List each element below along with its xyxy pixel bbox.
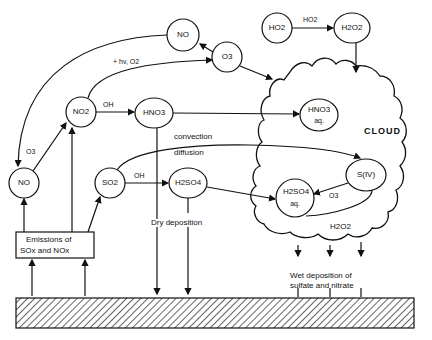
- node-label-no-left: NO: [15, 179, 33, 187]
- label-wet-deposition-2: sulfate and nitrate: [290, 282, 354, 290]
- node-h2so4-aq: [276, 179, 314, 217]
- node-label-h2so4: H2SO4: [174, 179, 202, 187]
- node-label-siv: S(IV): [352, 171, 380, 179]
- label-convection: convection: [174, 133, 212, 141]
- node-label-h2o2: H2O2: [338, 24, 366, 32]
- cloud-shape: [251, 58, 407, 240]
- label-emissions-2: SOx and NOx: [20, 247, 69, 255]
- node-label-so2: SO2: [99, 179, 121, 187]
- node-label-hno3-aq: HNO3: [305, 106, 333, 114]
- label-o3-cloud: O3: [329, 192, 338, 199]
- node-label-no-top: NO: [174, 31, 192, 39]
- node-label-o3: O3: [218, 53, 236, 61]
- label-oh-1: OH: [103, 101, 114, 108]
- label-diffusion: diffusion: [174, 149, 204, 157]
- node-label-ho2: HO2: [266, 24, 288, 32]
- label-hv-o2: + hv, O2: [113, 58, 139, 65]
- label-emissions-1: Emissions of: [26, 236, 71, 244]
- label-h2o2-cloud: H2O2: [330, 223, 351, 231]
- label-wet-deposition-1: Wet deposition of: [290, 272, 352, 280]
- ground-surface: [16, 298, 414, 328]
- node-label-no2: NO2: [70, 108, 92, 116]
- node-label-hno3: HNO3: [140, 109, 168, 117]
- node-label-h2so4-aq-sub: aq.: [286, 200, 304, 207]
- label-cloud: CLOUD: [364, 127, 401, 136]
- label-dry-deposition: Dry deposition: [150, 219, 203, 227]
- atmospheric-chemistry-diagram: NO O3 HO2 H2O2 NO2 HNO3 HNO3 aq. NO SO2 …: [0, 0, 432, 340]
- node-label-h2so4-aq: H2SO4: [282, 188, 310, 196]
- label-o3-left: O3: [26, 148, 35, 155]
- node-hno3-aq: [300, 99, 338, 131]
- label-ho2-arrow: HO2: [303, 16, 317, 23]
- node-label-hno3-aq-sub: aq.: [310, 117, 328, 124]
- label-oh-2: OH: [134, 172, 145, 179]
